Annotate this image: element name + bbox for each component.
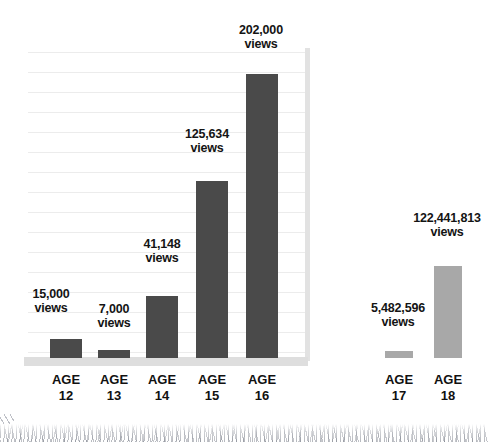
value-number: 122,441,813 [392, 212, 488, 226]
value-label-age-17: 5,482,596 views [352, 302, 444, 329]
value-label-age-12: 15,000 views [16, 288, 86, 315]
value-unit: views [127, 252, 197, 266]
infographic-canvas: 15,000 views 7,000 views 41,148 views 12… [0, 0, 488, 442]
value-number: 41,148 [127, 238, 197, 252]
baseline-left [24, 357, 308, 366]
value-number: 15,000 [16, 288, 86, 302]
value-unit: views [16, 302, 86, 316]
bar-age-12[interactable] [50, 339, 82, 358]
value-number: 7,000 [79, 303, 149, 317]
value-unit: views [392, 226, 488, 240]
bar-age-17[interactable] [385, 351, 413, 358]
axis-label-number: 18 [418, 388, 478, 404]
value-label-age-16: 202,000 views [222, 24, 300, 51]
bar-age-15[interactable] [196, 181, 228, 358]
scan-noise-band [0, 424, 488, 442]
value-label-age-18: 122,441,813 views [392, 212, 488, 239]
value-unit: views [168, 142, 246, 156]
axis-label-word: AGE [418, 372, 478, 388]
bar-age-14[interactable] [146, 296, 178, 358]
value-label-age-13: 7,000 views [79, 303, 149, 330]
axis-label-age-18: AGE 18 [418, 372, 478, 404]
bar-age-16[interactable] [246, 74, 278, 358]
value-number: 5,482,596 [352, 302, 444, 316]
value-label-age-14: 41,148 views [127, 238, 197, 265]
scan-noise-fade [0, 424, 488, 442]
value-number: 125,634 [168, 128, 246, 142]
value-number: 202,000 [222, 24, 300, 38]
value-unit: views [79, 317, 149, 331]
value-unit: views [222, 38, 300, 52]
axis-label-word: AGE [232, 372, 292, 388]
axis-label-number: 16 [232, 388, 292, 404]
value-label-age-15: 125,634 views [168, 128, 246, 155]
bar-age-13[interactable] [98, 350, 130, 358]
value-unit: views [352, 316, 444, 330]
axis-label-age-16: AGE 16 [232, 372, 292, 404]
